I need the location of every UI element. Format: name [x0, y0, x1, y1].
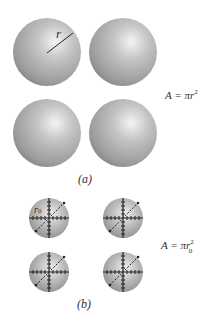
equation-exponent: 2 [190, 238, 194, 246]
equation-lhs: A = [165, 89, 184, 101]
radius-subscript: 0 [38, 207, 42, 215]
caption-b: (b) [77, 297, 91, 312]
equation-subscript: 0 [189, 247, 193, 255]
equation-area-b: A = πr20 [161, 238, 197, 251]
equation-area-a: A = πr2 [165, 88, 198, 101]
caption-a: (a) [78, 172, 92, 187]
figure-canvas [0, 0, 209, 324]
equation-exponent: 2 [194, 88, 198, 96]
radius-label: r [56, 26, 61, 42]
sphere-a3 [13, 99, 81, 167]
radius-label-r0: r0 [34, 204, 41, 215]
equation-lhs: A = [161, 239, 180, 251]
panel-a-spheres [13, 18, 157, 167]
sphere-a1 [13, 18, 81, 86]
sphere-a4 [89, 99, 157, 167]
panel-b-spheres [29, 198, 143, 292]
sphere-a2 [89, 18, 157, 86]
